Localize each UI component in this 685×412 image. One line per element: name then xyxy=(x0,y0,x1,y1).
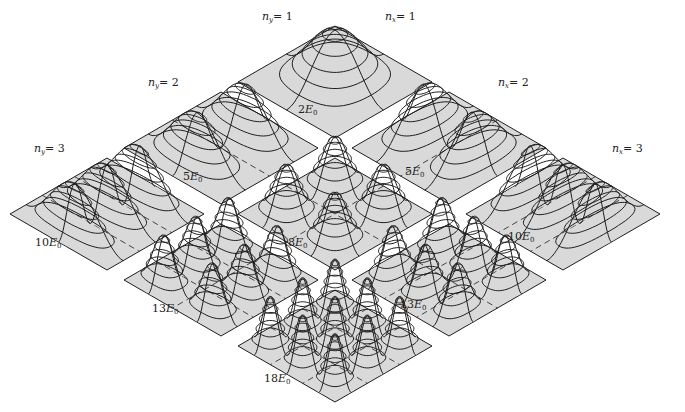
quantum-box-diagram xyxy=(0,0,685,412)
energy-label-nx3-ny3: 18E0 xyxy=(264,372,291,386)
energy-label-nx2-ny2: 8E0 xyxy=(288,236,308,250)
quantum-number-label-nx3: nx= 3 xyxy=(612,142,643,156)
energy-label-nx3-ny2: 13E0 xyxy=(400,298,427,312)
energy-label-nx1-ny1: 2E0 xyxy=(298,103,318,117)
energy-label-nx1-ny3: 10E0 xyxy=(35,236,62,250)
quantum-number-label-ny2: ny= 2 xyxy=(148,76,179,90)
energy-label-nx2-ny1: 5E0 xyxy=(405,165,425,179)
quantum-number-label-ny1: ny= 1 xyxy=(262,10,293,24)
quantum-number-label-nx2: nx= 2 xyxy=(498,76,529,90)
energy-label-nx2-ny3: 13E0 xyxy=(152,302,179,316)
quantum-number-label-nx1: nx= 1 xyxy=(385,10,416,24)
quantum-number-label-ny3: ny= 3 xyxy=(34,142,65,156)
energy-label-nx3-ny1: 10E0 xyxy=(508,230,535,244)
energy-label-nx1-ny2: 5E0 xyxy=(183,170,203,184)
